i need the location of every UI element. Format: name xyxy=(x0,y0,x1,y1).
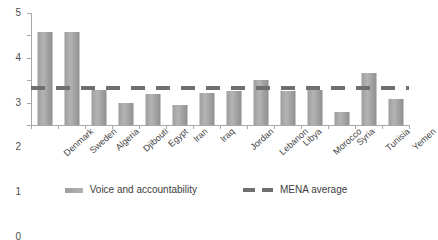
bar-slot xyxy=(247,13,274,125)
bar xyxy=(172,105,187,125)
legend-label-mena-average: MENA average xyxy=(280,185,347,195)
bar xyxy=(361,73,376,125)
x-axis-label: Egypt xyxy=(167,127,190,149)
legend-item-voice-and-accountability: Voice and accountability xyxy=(65,185,197,195)
bar xyxy=(145,94,160,125)
x-axis-label: Iran xyxy=(192,127,210,144)
x-axis-label: Tunisia xyxy=(384,127,411,153)
bar-slot xyxy=(301,13,328,125)
y-tick-label: 2 xyxy=(15,142,21,152)
x-axis-label: Denmark xyxy=(63,127,96,158)
bar xyxy=(91,90,106,125)
bar-slot xyxy=(220,13,247,125)
dashed-line-swatch-icon xyxy=(243,188,273,192)
y-tick-label: 5 xyxy=(15,8,21,18)
legend-item-mena-average: MENA average xyxy=(243,185,347,195)
x-axis-labels: DenmarkSwedenAlgeriaDjiboutiEgyptIranIra… xyxy=(31,127,409,173)
bar-slot xyxy=(328,13,355,125)
bar-slot xyxy=(139,13,166,125)
bar xyxy=(118,103,133,125)
bar-slot xyxy=(58,13,85,125)
bar-slot xyxy=(112,13,139,125)
bar xyxy=(64,32,79,125)
bar xyxy=(334,112,349,125)
x-tick xyxy=(409,125,410,129)
bar-slot xyxy=(31,13,58,125)
x-axis-label: Algeria xyxy=(114,127,141,152)
bar-slot xyxy=(274,13,301,125)
bar xyxy=(388,99,403,125)
bar xyxy=(37,32,52,125)
bar xyxy=(280,91,295,125)
bar xyxy=(199,93,214,125)
y-tick-label: 3 xyxy=(15,98,21,108)
bar-swatch-icon xyxy=(65,188,83,193)
y-tick-label: 4 xyxy=(15,53,21,63)
bar-slot xyxy=(355,13,382,125)
y-tick-label: 0 xyxy=(15,232,21,240)
chart-legend: Voice and accountability MENA average xyxy=(0,181,412,199)
x-axis-label: Iraq xyxy=(219,127,237,144)
bar xyxy=(307,90,322,125)
bar-slot xyxy=(166,13,193,125)
legend-label-voice-and-accountability: Voice and accountability xyxy=(90,185,197,195)
bar-series-voice-and-accountability xyxy=(31,13,409,125)
plot-area: 012345 xyxy=(31,13,409,125)
x-axis-label: Jordan xyxy=(249,127,275,152)
bar-slot xyxy=(85,13,112,125)
bar-slot xyxy=(382,13,409,125)
bar xyxy=(226,91,241,125)
mena-average-reference-line xyxy=(31,86,409,90)
x-axis-label: Yemen xyxy=(411,127,438,152)
bar-slot xyxy=(193,13,220,125)
